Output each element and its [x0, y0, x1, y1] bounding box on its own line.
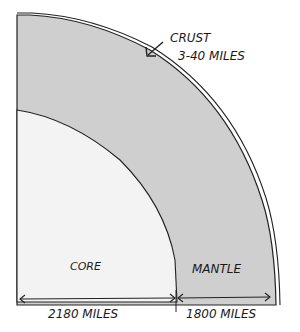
mantle-thickness-label: 1800 MILES	[186, 307, 257, 321]
core-label: CORE	[70, 260, 101, 273]
crust-label: CRUST	[170, 31, 212, 45]
mantle-label: MANTLE	[192, 262, 242, 276]
crust-thickness: 3-40 MILES	[178, 49, 245, 63]
core-radius-label: 2180 MILES	[48, 307, 119, 321]
earth-layers-diagram: CRUST 3-40 MILES CORE MANTLE 2180 MILES …	[0, 0, 300, 332]
